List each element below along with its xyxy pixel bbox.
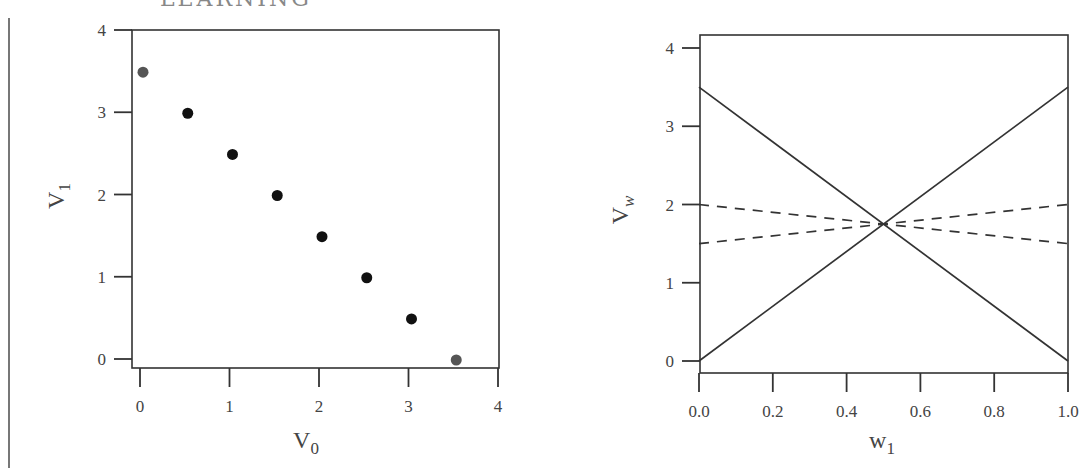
y-axis-label: Vw (607, 195, 638, 224)
x-tick-label: 0.2 (762, 402, 783, 421)
data-point (361, 272, 372, 283)
y-tick-label: 2 (98, 186, 107, 205)
x-tick-label: 3 (404, 397, 413, 416)
x-tick-label: 0.4 (836, 402, 858, 421)
data-point (182, 108, 193, 119)
y-tick-label: 3 (666, 117, 675, 136)
y-axis-ticks: 01234 (666, 39, 701, 371)
x-tick-label: 0 (136, 397, 145, 416)
data-points (138, 67, 462, 366)
data-point (138, 67, 149, 78)
x-axis-label: w1 (869, 427, 895, 458)
data-point (406, 313, 417, 324)
y-axis-label: V1 (43, 183, 74, 209)
data-point (272, 190, 283, 201)
y-tick-label: 3 (98, 103, 107, 122)
data-point (451, 355, 462, 366)
line-chart-vw-w1: 01234 0.00.20.40.60.81.0 w1 Vw (607, 35, 1079, 458)
x-tick-label: 2 (315, 397, 324, 416)
y-tick-label: 4 (666, 39, 675, 58)
data-point (317, 231, 328, 242)
data-lines (699, 87, 1068, 361)
x-tick-label: 0.6 (910, 402, 931, 421)
plot-frame (700, 35, 1068, 373)
y-tick-label: 0 (666, 352, 675, 371)
x-tick-label: 0.0 (688, 402, 709, 421)
y-axis-ticks: 01234 (98, 21, 133, 369)
y-tick-label: 0 (98, 350, 107, 369)
y-tick-label: 4 (98, 21, 107, 40)
data-point (227, 149, 238, 160)
x-axis-ticks: 01234 (136, 368, 503, 416)
y-tick-label: 2 (666, 196, 675, 215)
x-axis-label: V0 (293, 427, 319, 458)
x-axis-ticks: 0.00.20.40.60.81.0 (688, 373, 1078, 421)
x-tick-label: 1.0 (1057, 402, 1078, 421)
x-tick-label: 0.8 (984, 402, 1005, 421)
x-tick-label: 4 (494, 397, 503, 416)
x-tick-label: 1 (225, 397, 234, 416)
y-tick-label: 1 (98, 268, 107, 287)
plot-border (132, 30, 499, 368)
scatter-chart-v0-v1: 01234 01234 V0 V1 (43, 21, 503, 458)
plot-border (700, 35, 1068, 373)
plot-frame (132, 30, 499, 368)
charts-canvas: 01234 01234 V0 V1 01234 0.00.20.40.60.81… (0, 0, 1086, 475)
y-tick-label: 1 (666, 274, 675, 293)
